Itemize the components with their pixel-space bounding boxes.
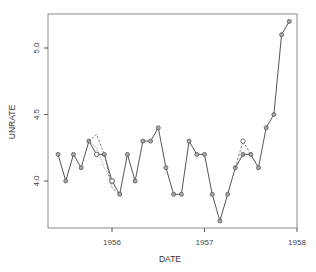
line-chart: 195619571958 4.04.55.0 DATE UNRATE bbox=[0, 0, 316, 272]
x-tick-label: 1958 bbox=[288, 238, 306, 247]
data-point bbox=[218, 219, 222, 223]
data-point bbox=[172, 192, 176, 196]
data-point bbox=[210, 192, 214, 196]
data-point bbox=[226, 192, 230, 196]
data-point bbox=[195, 152, 199, 156]
x-tick-label: 1956 bbox=[103, 238, 121, 247]
data-point bbox=[272, 113, 276, 117]
data-point bbox=[287, 19, 291, 23]
data-point bbox=[179, 192, 183, 196]
data-point bbox=[79, 166, 83, 170]
data-point bbox=[133, 179, 137, 183]
data-point bbox=[256, 166, 260, 170]
data-point bbox=[125, 152, 129, 156]
y-tick-label: 4.5 bbox=[32, 108, 41, 120]
data-point bbox=[280, 33, 284, 37]
open-square-marker bbox=[110, 179, 114, 183]
x-tick-label: 1957 bbox=[196, 238, 214, 247]
y-axis-label: UNRATE bbox=[7, 105, 17, 140]
data-point bbox=[71, 152, 75, 156]
x-axis-label: DATE bbox=[159, 254, 181, 264]
imputed-line bbox=[89, 134, 120, 194]
y-axis: 4.04.55.0 bbox=[32, 42, 48, 187]
open-circle-marker bbox=[241, 139, 245, 143]
data-point bbox=[141, 139, 145, 143]
series-layer bbox=[56, 19, 291, 223]
y-tick-label: 5.0 bbox=[32, 42, 41, 54]
data-point bbox=[156, 126, 160, 130]
data-point bbox=[56, 152, 60, 156]
data-point bbox=[187, 139, 191, 143]
data-point bbox=[264, 126, 268, 130]
series-line bbox=[58, 21, 289, 221]
data-point bbox=[149, 139, 153, 143]
x-axis: 195619571958 bbox=[103, 228, 306, 247]
data-point bbox=[64, 179, 68, 183]
open-circle-marker bbox=[94, 152, 98, 156]
data-point bbox=[203, 152, 207, 156]
y-tick-label: 4.0 bbox=[32, 175, 41, 187]
data-point bbox=[164, 166, 168, 170]
